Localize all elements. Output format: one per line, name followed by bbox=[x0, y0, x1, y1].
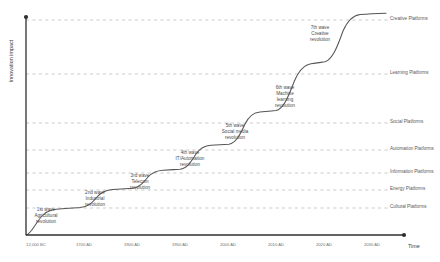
platform-label-3: Information Platforms bbox=[390, 169, 434, 174]
wave-label-3: 3rd wave Telecom revolution bbox=[130, 173, 150, 191]
wave-label-6: 6th wave Machine learning revolution bbox=[275, 85, 295, 109]
x-tick-label: 2010 AD bbox=[268, 242, 284, 247]
innovation-curve bbox=[26, 13, 386, 235]
x-tick-label: 12,000 BC bbox=[26, 242, 46, 247]
platform-label-5: Social Platforms bbox=[390, 119, 423, 124]
wave-label-1: 1st wave Agricultural revolution bbox=[34, 207, 57, 225]
wave-label-7: 7th wave Creative revolution bbox=[310, 25, 330, 43]
wave-label-2: 2nd wave Industrial revolution bbox=[85, 190, 105, 208]
y-axis-title: Innovation impact bbox=[8, 26, 14, 96]
innovation-waves-diagram: Innovation impact Time 12,000 BC1700 AD1… bbox=[0, 0, 440, 262]
wave-label-4: 4th wave IT/Automation revolution bbox=[176, 150, 205, 168]
wave-label-5: 5th wave Social media revolution bbox=[222, 123, 249, 141]
platform-label-7: Creative Platforms bbox=[390, 16, 428, 21]
platform-label-6: Learning Platforms bbox=[390, 70, 429, 75]
axes bbox=[24, 15, 406, 237]
x-tick-label: 2000 AD bbox=[220, 242, 236, 247]
x-tick-label: 2030 AD bbox=[364, 242, 380, 247]
platform-label-2: Energy Platforms bbox=[390, 186, 425, 191]
x-axis-title: Time bbox=[408, 243, 420, 249]
platform-label-1: Cultural Platforms bbox=[390, 204, 427, 209]
x-tick-label: 1700 AD bbox=[76, 242, 92, 247]
diagram-canvas bbox=[0, 0, 440, 262]
x-tick-label: 2020 AD bbox=[316, 242, 332, 247]
x-tick-label: 1950 AD bbox=[172, 242, 188, 247]
platform-label-4: Automation Platforms bbox=[390, 146, 434, 151]
x-tick-label: 1900 AD bbox=[124, 242, 140, 247]
plateau-dashed-lines bbox=[26, 20, 388, 208]
